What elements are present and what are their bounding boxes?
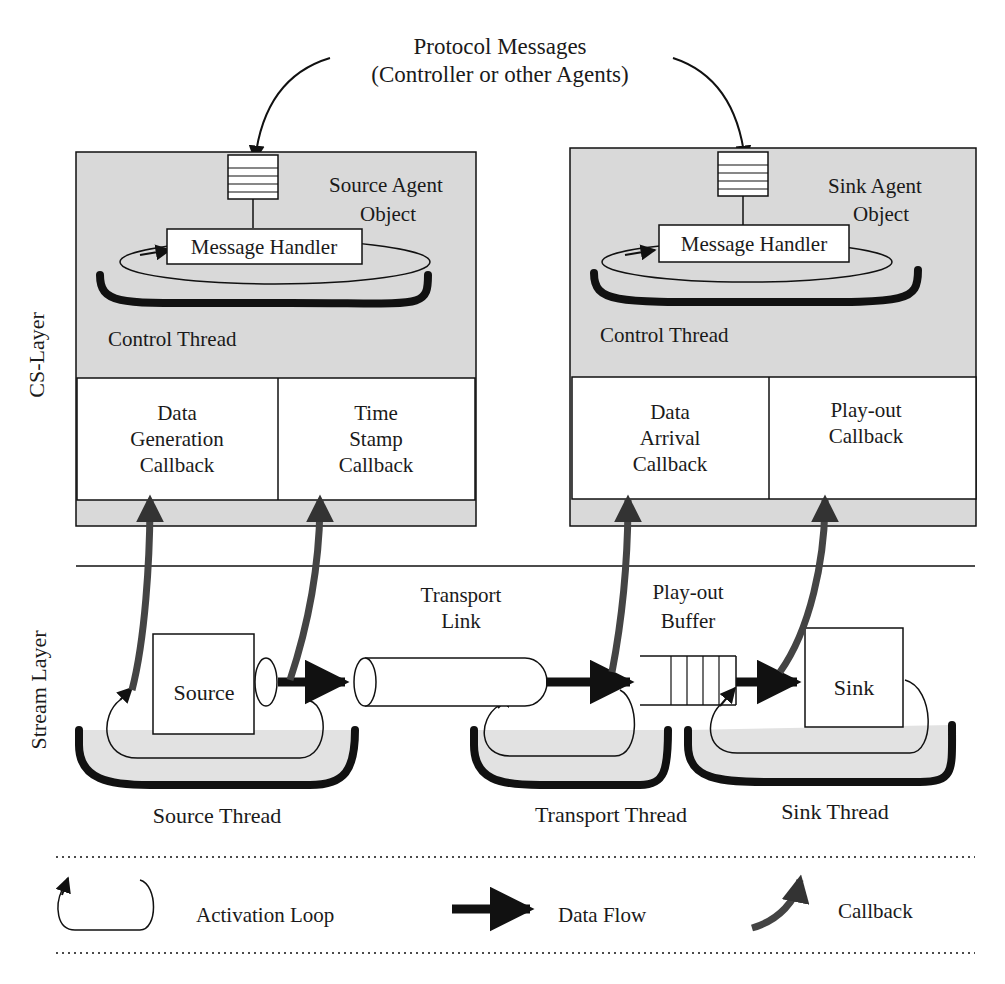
transport-thread-label: Transport Thread — [535, 802, 687, 827]
callback-label: Data — [157, 401, 197, 425]
callback-label: Stamp — [349, 427, 403, 451]
control-thread-label: Control Thread — [108, 327, 237, 351]
message-handler-label: Message Handler — [681, 232, 827, 256]
sink-agent-title: Sink Agent — [828, 174, 922, 198]
transport-link-label: Transport — [421, 583, 502, 607]
callback-label: Data — [650, 400, 690, 424]
message-queue-icon — [228, 155, 278, 199]
transport-thread — [474, 730, 668, 785]
architecture-diagram: Protocol Messages (Controller or other A… — [0, 0, 1005, 984]
callback-arrow-icon — [290, 500, 320, 680]
protocol-messages-sublabel: (Controller or other Agents) — [371, 62, 628, 87]
source-thread-label: Source Thread — [153, 803, 282, 828]
source-agent-title: Source Agent — [329, 173, 443, 197]
stream-layer-label: Stream Layer — [26, 630, 51, 750]
legend-data-flow-label: Data Flow — [558, 903, 647, 927]
playout-buffer-label-2: Buffer — [661, 609, 715, 633]
message-handler-label: Message Handler — [191, 235, 337, 259]
callback-label: Arrival — [640, 426, 701, 450]
legend-activation-loop-label: Activation Loop — [196, 903, 334, 927]
transport-link-label-2: Link — [441, 609, 481, 633]
source-label: Source — [173, 680, 234, 705]
callback-label: Play-out — [830, 398, 901, 422]
cs-layer-label: CS-Layer — [24, 312, 49, 398]
source-port-icon — [255, 658, 277, 706]
playout-buffer-label: Play-out — [652, 580, 723, 604]
playout-buffer — [640, 656, 736, 705]
callback-arrow-icon — [132, 500, 150, 690]
sink-agent-object: Message Handler Sink Agent Object Contro… — [570, 148, 976, 526]
source-agent-title-2: Object — [360, 202, 416, 226]
callback-label: Callback — [339, 453, 414, 477]
sink-thread-label: Sink Thread — [781, 799, 889, 824]
legend-callback-label: Callback — [838, 899, 913, 923]
activation-loop-legend-icon — [58, 880, 153, 930]
sink-label: Sink — [834, 675, 874, 700]
message-arrow-right-icon — [673, 58, 745, 160]
callback-label: Generation — [130, 427, 224, 451]
transport-link-tube — [354, 658, 547, 706]
callback-label: Time — [354, 401, 398, 425]
callback-label: Callback — [829, 424, 904, 448]
message-arrow-left-icon — [255, 58, 330, 160]
source-agent-object: Message Handler Source Agent Object Cont… — [76, 152, 476, 526]
message-queue-icon — [718, 152, 768, 196]
protocol-messages-label: Protocol Messages — [413, 34, 586, 59]
sink-agent-title-2: Object — [853, 202, 909, 226]
control-thread-label: Control Thread — [600, 323, 729, 347]
callback-legend-icon — [752, 880, 800, 928]
callback-label: Callback — [633, 452, 708, 476]
callback-label: Callback — [140, 453, 215, 477]
